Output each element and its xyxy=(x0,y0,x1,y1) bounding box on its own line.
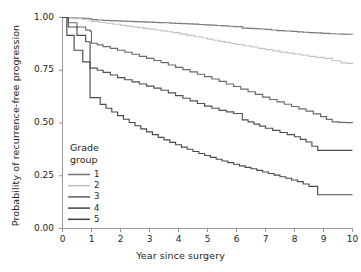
x-tick-label: 2 xyxy=(111,234,131,244)
x-axis-title: Year since surgery xyxy=(0,250,361,261)
series-line-grade-1 xyxy=(63,18,353,35)
y-tick-label: 0.50 xyxy=(20,117,54,127)
x-tick-label: 0 xyxy=(53,234,73,244)
legend-title-line2: group xyxy=(70,154,98,165)
x-tick-label: 8 xyxy=(285,234,305,244)
y-tick-label: 1.00 xyxy=(20,12,54,22)
legend-title-line1: Grade xyxy=(70,142,99,153)
x-tick-label: 5 xyxy=(198,234,218,244)
kaplan-meier-chart: Year since surgery Probability of recurr… xyxy=(0,0,361,272)
y-tick-label: 0.75 xyxy=(20,64,54,74)
plot-canvas xyxy=(0,0,361,272)
x-tick-label: 4 xyxy=(169,234,189,244)
x-tick-label: 7 xyxy=(256,234,276,244)
y-tick-label: 0.25 xyxy=(20,170,54,180)
legend-label-grade-5: 5 xyxy=(94,214,99,224)
x-tick-label: 10 xyxy=(343,234,361,244)
y-tick-label: 0.00 xyxy=(20,223,54,233)
x-tick-label: 6 xyxy=(227,234,247,244)
legend-label-grade-1: 1 xyxy=(94,169,99,179)
x-tick-label: 1 xyxy=(82,234,102,244)
legend-label-grade-2: 2 xyxy=(94,180,99,190)
y-axis-title: Probability of recurrence-free progressi… xyxy=(10,16,21,236)
legend-label-grade-3: 3 xyxy=(94,191,99,201)
x-tick-label: 3 xyxy=(140,234,160,244)
x-tick-label: 9 xyxy=(314,234,334,244)
legend-label-grade-4: 4 xyxy=(94,203,99,213)
